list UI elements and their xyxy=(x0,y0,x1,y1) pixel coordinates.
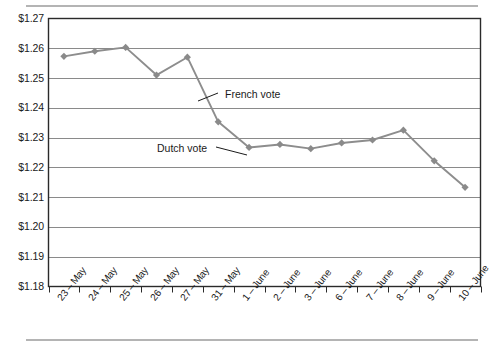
annotation-label: Dutch vote xyxy=(157,142,207,154)
exchange-rate-line xyxy=(64,47,465,187)
y-axis-tick-label: $1.18 xyxy=(2,280,44,292)
annotation-label: French vote xyxy=(225,88,280,100)
plot-area-border xyxy=(49,19,481,287)
data-point-marker xyxy=(338,139,345,146)
data-point-marker xyxy=(307,145,314,152)
y-axis-tick-label: $1.25 xyxy=(2,72,44,84)
data-point-marker xyxy=(276,141,283,148)
y-axis-tick-label: $1.20 xyxy=(2,220,44,232)
y-axis-tick-label: $1.24 xyxy=(2,101,44,113)
y-axis-tick-label: $1.21 xyxy=(2,191,44,203)
data-point-marker xyxy=(369,136,376,143)
y-axis-tick-label: $1.19 xyxy=(2,250,44,262)
data-point-marker xyxy=(60,53,67,60)
chart-figure: $1.27$1.26$1.25$1.24$1.23$1.22$1.21$1.20… xyxy=(0,0,497,348)
annotation-leader-line xyxy=(216,147,247,155)
y-axis-tick-label: $1.22 xyxy=(2,161,44,173)
x-axis-ticks xyxy=(50,287,482,293)
y-axis-tick-label: $1.27 xyxy=(2,12,44,24)
y-axis-tick-label: $1.26 xyxy=(2,42,44,54)
gridlines xyxy=(49,49,481,258)
y-axis-tick-label: $1.23 xyxy=(2,131,44,143)
data-point-markers xyxy=(60,44,468,191)
